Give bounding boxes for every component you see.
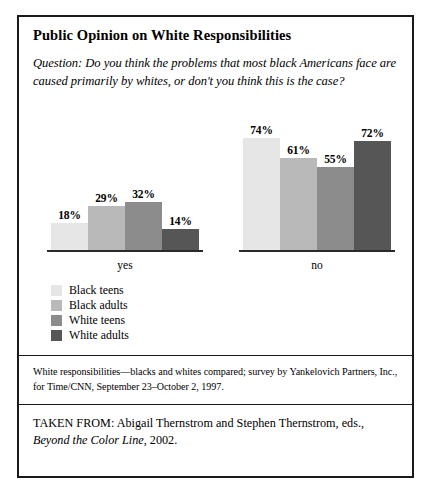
legend-swatch-icon — [51, 285, 62, 296]
taken-from-note: TAKEN FROM: Abigail Thernstrom and Steph… — [33, 405, 398, 449]
bar-value-label: 18% — [58, 209, 80, 221]
legend-label: White adults — [69, 330, 129, 342]
legend-label: Black teens — [69, 285, 124, 297]
bar-wrap: 61% — [280, 98, 317, 250]
bar-chart: 18% 29% 32% 14 — [33, 96, 398, 271]
legend-swatch-icon — [51, 300, 62, 311]
bar-wrap: 55% — [317, 98, 354, 250]
figure-inner: Public Opinion on White Responsibilities… — [19, 17, 412, 476]
taken-from-book-title: Beyond the Color Line — [33, 433, 144, 447]
bar-value-label: 29% — [95, 192, 117, 204]
bar-white-adults-no: 72% — [354, 141, 391, 250]
bar-black-adults-no: 61% — [280, 158, 317, 251]
bar-white-teens-yes: 32% — [125, 202, 162, 251]
legend-item-white-adults: White adults — [51, 328, 398, 343]
chart-legend: Black teens Black adults White teens Whi… — [51, 283, 398, 343]
bar-value-label: 14% — [169, 215, 191, 227]
bar-black-teens-no: 74% — [243, 138, 280, 250]
bars-yes: 18% 29% 32% 14 — [51, 98, 199, 250]
bar-wrap: 14% — [162, 98, 199, 250]
group-label-no: no — [243, 259, 391, 271]
axis-baseline — [239, 250, 395, 252]
question-text: Question: Do you think the problems that… — [33, 54, 398, 91]
bar-black-teens-yes: 18% — [51, 223, 88, 250]
legend-label: Black adults — [69, 300, 128, 312]
bar-wrap: 29% — [88, 98, 125, 250]
bar-white-teens-no: 55% — [317, 167, 354, 251]
legend-swatch-icon — [51, 330, 62, 341]
taken-from-year: , 2002. — [144, 433, 178, 447]
legend-item-black-teens: Black teens — [51, 283, 398, 298]
page-title: Public Opinion on White Responsibilities — [33, 28, 398, 44]
bar-value-label: 32% — [132, 188, 154, 200]
legend-label: White teens — [69, 315, 125, 327]
bar-value-label: 72% — [361, 127, 383, 139]
bars-no: 74% 61% 55% 72 — [243, 98, 391, 250]
bar-group-yes: 18% 29% 32% 14 — [51, 96, 199, 271]
bar-group-no: 74% 61% 55% 72 — [243, 96, 391, 271]
legend-swatch-icon — [51, 315, 62, 326]
axis-baseline — [47, 250, 203, 252]
bar-value-label: 55% — [324, 153, 346, 165]
legend-item-white-teens: White teens — [51, 313, 398, 328]
taken-from-prefix: TAKEN FROM: Abigail Thernstrom and Steph… — [33, 416, 364, 430]
group-label-yes: yes — [51, 259, 199, 271]
bar-black-adults-yes: 29% — [88, 206, 125, 250]
bar-wrap: 74% — [243, 98, 280, 250]
bar-wrap: 18% — [51, 98, 88, 250]
bar-wrap: 72% — [354, 98, 391, 250]
bar-value-label: 74% — [250, 124, 272, 136]
bar-value-label: 61% — [287, 144, 309, 156]
bar-white-adults-yes: 14% — [162, 229, 199, 250]
source-note: White responsibilities—blacks and whites… — [33, 356, 398, 403]
figure-box: Public Opinion on White Responsibilities… — [17, 15, 414, 478]
legend-item-black-adults: Black adults — [51, 298, 398, 313]
bar-wrap: 32% — [125, 98, 162, 250]
